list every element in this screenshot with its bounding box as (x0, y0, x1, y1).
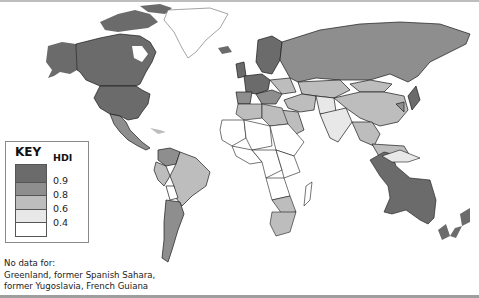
swatch-very-high (16, 165, 46, 183)
legend-hdi-label: HDI (53, 152, 72, 163)
legend-swatches (15, 164, 47, 237)
legend-title: KEY (15, 145, 41, 159)
north-america (46, 4, 172, 150)
south-america (154, 148, 210, 262)
swatch-high (16, 183, 46, 196)
legend-tick-04: 0.4 (53, 217, 68, 228)
swatch-medium (16, 196, 46, 210)
no-data-label: No data for: (4, 258, 155, 270)
swatch-low-medium (16, 210, 46, 223)
asia (280, 22, 470, 158)
legend-tick-09: 0.9 (53, 175, 68, 186)
legend-key: KEY HDI 0.9 0.8 0.6 0.4 (5, 141, 89, 243)
swatch-low (16, 223, 46, 236)
no-data-note: No data for: Greenland, former Spanish S… (4, 258, 155, 293)
legend-tick-06: 0.6 (53, 203, 68, 214)
greenland (164, 8, 228, 58)
legend-tick-08: 0.8 (53, 189, 68, 200)
iceland (218, 46, 232, 54)
oceania (370, 150, 470, 240)
no-data-line-1: Greenland, former Spanish Sahara, (4, 270, 155, 282)
no-data-line-2: former Yugoslavia, French Guiana (4, 281, 155, 293)
